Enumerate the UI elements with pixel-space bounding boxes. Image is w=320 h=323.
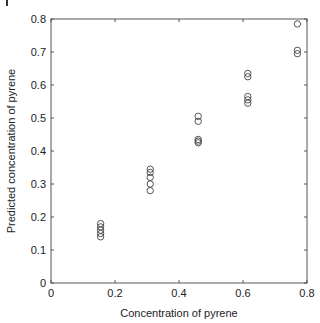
scatter-chart: 00.20.40.60.800.10.20.30.40.50.60.70.8 C…: [0, 0, 320, 323]
data-points: [97, 21, 300, 240]
y-tick-label: 0.2: [31, 211, 46, 223]
x-tick-label: 0.2: [107, 287, 122, 299]
x-tick-label: 0.4: [171, 287, 186, 299]
data-point-marker: [147, 187, 153, 193]
y-tick-label: 0.1: [31, 244, 46, 256]
y-axis-label: Predicted concentration of pyrene: [5, 69, 17, 234]
x-axis-label: Concentration of pyrene: [120, 307, 237, 319]
y-tick-label: 0.4: [31, 145, 46, 157]
y-tick-label: 0: [40, 277, 46, 289]
plot-area: [51, 19, 307, 283]
y-tick-label: 0.5: [31, 112, 46, 124]
y-tick-label: 0.8: [31, 13, 46, 25]
x-tick-label: 0.6: [235, 287, 250, 299]
data-point-marker: [147, 174, 153, 180]
axis-ticks: 00.20.40.60.800.10.20.30.40.50.60.70.8: [31, 13, 315, 299]
data-point-marker: [147, 181, 153, 187]
data-point-marker: [195, 118, 201, 124]
x-tick-label: 0.8: [299, 287, 314, 299]
y-tick-label: 0.3: [31, 178, 46, 190]
y-tick-label: 0.7: [31, 46, 46, 58]
x-tick-label: 0: [48, 287, 54, 299]
data-point-marker: [294, 21, 300, 27]
y-tick-label: 0.6: [31, 79, 46, 91]
plot-border: [51, 19, 307, 283]
